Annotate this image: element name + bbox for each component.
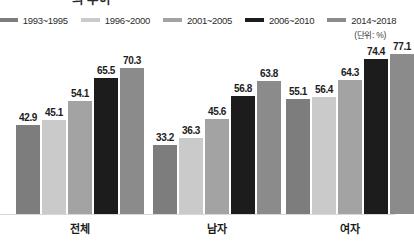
bar[interactable]: 56.4 (312, 97, 336, 214)
bar-value-label: 63.8 (260, 68, 278, 79)
bar-value-label: 45.1 (45, 107, 63, 118)
bar-group-bars: 33.236.345.656.863.8 (153, 40, 281, 214)
bar-rect (364, 59, 388, 214)
legend-item: 2001~2005 (163, 15, 232, 26)
bar[interactable]: 70.3 (120, 68, 144, 214)
bar[interactable]: 42.9 (16, 125, 40, 214)
bar-group: 42.945.154.165.570.3전체 (16, 40, 144, 247)
bar-value-label: 55.1 (289, 86, 307, 97)
legend-item-label: 1996~2000 (105, 15, 150, 26)
legend-swatch-icon (0, 18, 18, 22)
bar[interactable]: 45.1 (42, 120, 66, 214)
bar-value-label: 56.4 (315, 84, 333, 95)
bar-group: 33.236.345.656.863.8남자 (153, 40, 281, 247)
bar-rect (94, 78, 118, 214)
bar-value-label: 74.4 (367, 46, 385, 57)
bar-value-label: 36.3 (182, 125, 200, 136)
bar-rect (338, 80, 362, 214)
bar-rect (312, 97, 336, 214)
category-label: 전체 (16, 220, 144, 236)
legend-item-label: 2001~2005 (187, 15, 232, 26)
bar[interactable]: 77.1 (390, 54, 414, 214)
bar-rect (205, 119, 229, 214)
bar-group-bars: 42.945.154.165.570.3 (16, 40, 144, 214)
bar-value-label: 42.9 (19, 112, 37, 123)
bar[interactable]: 63.8 (257, 81, 281, 214)
bar-rect (153, 145, 177, 214)
bar-value-label: 65.5 (97, 65, 115, 76)
bar-rect (286, 99, 310, 214)
legend-item: 1993~1995 (0, 15, 68, 26)
category-label: 여자 (286, 220, 414, 236)
bar[interactable]: 54.1 (68, 101, 92, 214)
legend-item: 1996~2000 (81, 15, 150, 26)
legend-item-label: 2014~2018 (351, 15, 396, 26)
chart-plot-area: 42.945.154.165.570.3전체33.236.345.656.863… (0, 40, 395, 247)
chart-legend: 1993~19951996~20002001~20052006~20102014… (0, 12, 395, 28)
chart-title-cropped: 의 추이 (0, 0, 395, 9)
category-label: 남자 (153, 220, 281, 236)
bar-value-label: 77.1 (393, 41, 411, 52)
bar-rect (120, 68, 144, 214)
bar-value-label: 54.1 (71, 88, 89, 99)
unit-note: (단위: %) (354, 28, 386, 40)
bar-rect (42, 120, 66, 214)
bar[interactable]: 56.8 (231, 96, 255, 214)
bar-rect (231, 96, 255, 214)
bar-value-label: 33.2 (156, 132, 174, 143)
bar[interactable]: 64.3 (338, 80, 362, 214)
bar-value-label: 70.3 (123, 55, 141, 66)
bar-rect (257, 81, 281, 214)
legend-swatch-icon (327, 18, 346, 22)
bar[interactable]: 55.1 (286, 99, 310, 214)
bar-rect (68, 101, 92, 214)
legend-swatch-icon (163, 18, 182, 22)
bar-group-bars: 55.156.464.374.477.1 (286, 40, 414, 214)
bar[interactable]: 33.2 (153, 145, 177, 214)
bar-value-label: 45.6 (208, 106, 226, 117)
bar[interactable]: 45.6 (205, 119, 229, 214)
legend-swatch-icon (81, 18, 100, 22)
bar[interactable]: 74.4 (364, 59, 388, 214)
legend-item-label: 2006~2010 (269, 15, 314, 26)
bar[interactable]: 36.3 (179, 138, 203, 214)
bar-rect (179, 138, 203, 214)
bar-rect (16, 125, 40, 214)
legend-item-label: 1993~1995 (23, 15, 68, 26)
bar[interactable]: 65.5 (94, 78, 118, 214)
page-title: 의 추이 (72, 0, 111, 8)
bar-group: 55.156.464.374.477.1여자 (286, 40, 414, 247)
bar-value-label: 56.8 (234, 83, 252, 94)
legend-item: 2006~2010 (245, 15, 314, 26)
bar-value-label: 64.3 (341, 67, 359, 78)
legend-item: 2014~2018 (327, 15, 396, 26)
bar-rect (390, 54, 414, 214)
legend-swatch-icon (245, 18, 264, 22)
